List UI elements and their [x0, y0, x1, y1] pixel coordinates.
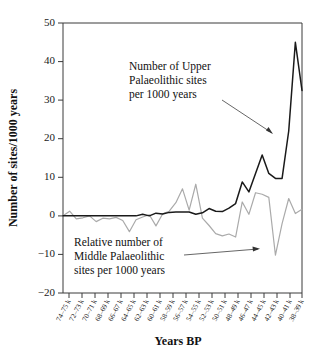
y-tick-label: 10: [44, 170, 56, 182]
upper-annotation-arrowhead: [266, 127, 273, 134]
middle-annotation-arrowhead: [253, 247, 261, 252]
chart-figure: 50 40 30 20 10 0 −10 −20: [0, 0, 331, 354]
middle-annotation-line-3: sites per 1000 years: [74, 264, 166, 277]
middle-annotation-line-1: Relative number of: [74, 236, 163, 248]
y-axis-ticks: [58, 23, 63, 293]
x-axis-title: Years BP: [155, 334, 202, 348]
upper-annotation-line-1: Number of Upper: [129, 60, 211, 73]
y-tick-label: 20: [44, 131, 56, 143]
upper-annotation-line-3: per 1000 years: [129, 88, 197, 101]
x-axis-ticks: [69, 293, 302, 298]
y-tick-label: −10: [38, 247, 56, 259]
middle-annotation-line-2: Middle Palaeolithic: [74, 250, 164, 262]
y-tick-label: 50: [44, 16, 56, 28]
y-tick-label: 40: [44, 54, 56, 66]
y-tick-label: −20: [38, 286, 56, 298]
upper-annotation-line-2: Palaeolithic sites: [129, 74, 207, 86]
upper-annotation: Number of Upper Palaeolithic sites per 1…: [129, 60, 273, 134]
y-tick-label: 30: [44, 93, 56, 105]
x-axis-tick-labels: 74–75 k 72–73 k 70–71 k 68–69 k 66–67 k …: [55, 298, 306, 323]
middle-annotation: Relative number of Middle Palaeolithic s…: [74, 236, 260, 277]
chart-canvas: 50 40 30 20 10 0 −10 −20: [0, 0, 331, 354]
y-axis-tick-labels: 50 40 30 20 10 0 −10 −20: [38, 16, 56, 298]
y-axis-title: Number of sites/1000 years: [6, 89, 20, 227]
y-tick-label: 0: [50, 208, 56, 220]
